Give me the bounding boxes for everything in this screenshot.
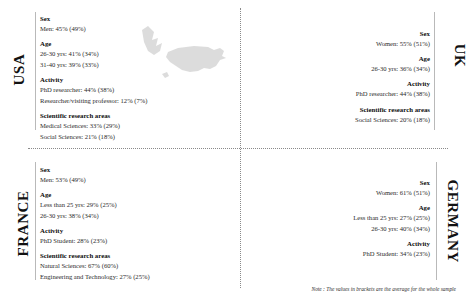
stat-row: PhD researcher: 44% (38%) <box>40 85 190 96</box>
stat-heading-age: Age <box>270 202 430 213</box>
stat-row: Less than 25 yrs: 29% (25%) <box>40 200 190 211</box>
footnote-text: Note : The values in brackets are the av… <box>312 286 456 292</box>
stat-row: Men: 53% (49%) <box>40 175 190 186</box>
stat-row: PhD Student: 28% (23%) <box>40 236 190 247</box>
stat-row: Engineering and Technology: 27% (25%) <box>40 272 190 283</box>
stat-row: Less than 25 yrs: 27% (25%) <box>270 213 430 224</box>
country-statistics-poster: USA Sex Men: 45% (49%) Age 26-30 yrs: 41… <box>0 0 470 300</box>
stat-row: Women: 61% (51%) <box>270 188 430 199</box>
stat-row: Medical Sciences: 33% (29%) <box>40 121 190 132</box>
stat-heading-sex: Sex <box>270 28 430 39</box>
stat-heading-activity: Activity <box>270 238 430 249</box>
stat-heading-research: Scientific research areas <box>270 104 430 115</box>
country-label-germany: GERMANY <box>445 180 460 260</box>
stat-heading-sex: Sex <box>270 177 430 188</box>
panel-germany: GERMANY Sex Women: 61% (51%) Age Less th… <box>235 150 470 298</box>
stat-row: 26-30 yrs: 38% (34%) <box>40 211 190 222</box>
stat-row: Natural Sciences: 67% (60%) <box>40 261 190 272</box>
panel-rule-france <box>35 162 36 280</box>
stat-row: PhD researcher: 44% (38%) <box>270 89 430 100</box>
horizontal-divider <box>28 148 448 149</box>
stats-uk: Sex Women: 55% (51%) Age 26-30 yrs: 36% … <box>270 28 430 125</box>
panel-usa: USA Sex Men: 45% (49%) Age 26-30 yrs: 41… <box>0 0 235 148</box>
stats-france: Sex Men: 53% (49%) Age Less than 25 yrs:… <box>40 164 190 283</box>
stat-row: Social Sciences: 20% (18%) <box>270 115 430 126</box>
stat-row: 26-30 yrs: 36% (34%) <box>270 64 430 75</box>
stat-heading-research: Scientific research areas <box>40 250 190 261</box>
stats-germany: Sex Women: 61% (51%) Age Less than 25 yr… <box>270 177 430 260</box>
stat-row: Women: 55% (51%) <box>270 39 430 50</box>
stat-heading-age: Age <box>270 53 430 64</box>
stat-row: PhD Student: 34% (23%) <box>270 249 430 260</box>
country-label-uk: UK <box>452 33 467 79</box>
stat-heading-research: Scientific research areas <box>40 110 190 121</box>
stat-heading-activity: Activity <box>270 78 430 89</box>
stat-heading-age: Age <box>40 189 190 200</box>
country-label-usa: USA <box>12 45 27 95</box>
panel-uk: UK Sex Women: 55% (51%) Age 26-30 yrs: 3… <box>235 0 470 148</box>
stat-row: Social Sciences: 21% (18%) <box>40 132 190 143</box>
stat-heading-sex: Sex <box>40 13 190 24</box>
stat-heading-sex: Sex <box>40 164 190 175</box>
stat-heading-activity: Activity <box>40 225 190 236</box>
panel-rule-usa <box>35 12 36 130</box>
country-label-france: FRANCE <box>16 191 31 257</box>
panel-rule-germany <box>436 162 437 280</box>
panel-rule-uk <box>434 12 435 130</box>
stat-row: Researcher/visiting professor: 12% (7%) <box>40 96 190 107</box>
usa-map-icon <box>138 24 230 84</box>
stat-row: 26-30 yrs: 40% (34%) <box>270 224 430 235</box>
panel-france: FRANCE Sex Men: 53% (49%) Age Less than … <box>0 150 235 298</box>
